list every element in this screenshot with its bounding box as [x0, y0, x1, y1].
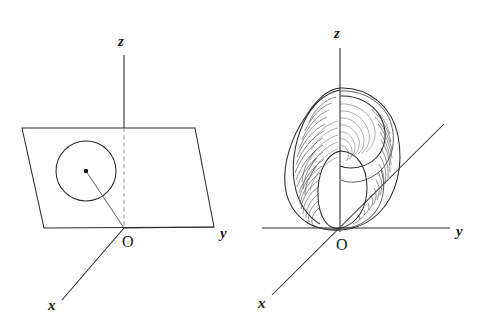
torus-surface [285, 88, 400, 230]
right-z-label: z [333, 25, 340, 41]
right-y-label: y [454, 223, 463, 239]
figure-root: z y x O [0, 0, 481, 327]
right-diagram: z y x O [0, 0, 481, 327]
torus-top-inner-rim [340, 96, 385, 168]
right-origin-label: O [336, 236, 348, 253]
hatch-throat-arcs [340, 104, 375, 161]
right-x-label: x [257, 295, 266, 311]
